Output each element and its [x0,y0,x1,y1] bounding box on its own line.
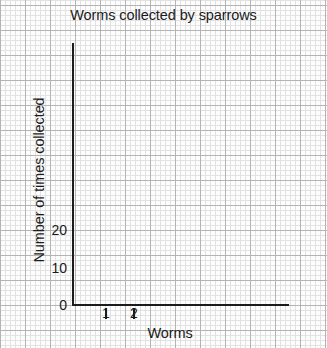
x-tick-label-1: 1 [96,306,116,320]
y-axis-line [72,43,74,306]
x-axis-title: Worms [110,325,230,341]
x-tick-label-2: 2 [124,306,144,320]
y-tick-label-0: 0 [33,298,67,312]
y-tick-label-20: 20 [33,223,67,237]
y-axis-title: Number of times collected [31,80,47,280]
chart-canvas: Worms collected by sparrows Number of ti… [0,0,327,348]
y-tick-label-10: 10 [33,261,67,275]
chart-title: Worms collected by sparrows [0,7,327,23]
